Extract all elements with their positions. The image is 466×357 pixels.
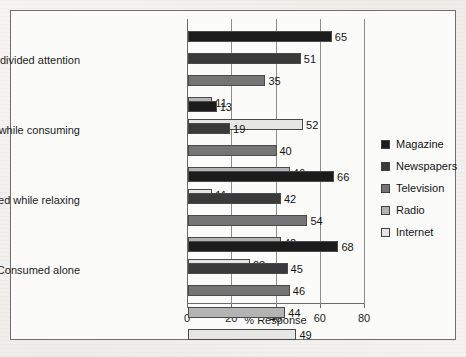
bar[interactable] xyxy=(188,263,288,274)
legend-item-magazine[interactable]: Magazine xyxy=(381,133,457,155)
bar[interactable] xyxy=(188,307,285,318)
bar[interactable] xyxy=(188,171,334,182)
bar-value-label: 13 xyxy=(217,101,232,113)
legend-label: Magazine xyxy=(396,138,444,150)
chart-figure: % Response 020406080Give undivided atten… xyxy=(10,10,456,340)
bar[interactable] xyxy=(188,101,217,112)
bar[interactable] xyxy=(188,145,277,156)
bar-group: Consumed alone6845464449 xyxy=(188,241,364,296)
bar[interactable] xyxy=(188,31,332,42)
bar-group: Do other things while consuming131940461… xyxy=(188,101,364,156)
legend-swatch-icon xyxy=(381,184,390,193)
bar[interactable] xyxy=(188,75,265,86)
bar-value-label: 68 xyxy=(338,241,353,253)
bar-row: 35 xyxy=(188,75,364,86)
legend-swatch-icon xyxy=(381,228,390,237)
bar-group: Give undivided attention6551351152 xyxy=(188,31,364,86)
bar-value-label: 19 xyxy=(230,123,245,135)
bar-value-label: 54 xyxy=(307,215,322,227)
bar-value-label: 49 xyxy=(296,329,311,341)
x-axis-tick xyxy=(364,304,365,308)
bar-row: 66 xyxy=(188,171,364,182)
legend-swatch-icon xyxy=(381,162,390,171)
legend-label: Television xyxy=(396,182,444,194)
bar-row: 42 xyxy=(188,193,364,204)
bar-row: 13 xyxy=(188,101,364,112)
bar-value-label: 66 xyxy=(334,171,349,183)
legend-swatch-icon xyxy=(381,206,390,215)
bar[interactable] xyxy=(188,215,307,226)
legend-item-internet[interactable]: Internet xyxy=(381,221,457,243)
bar-row: 44 xyxy=(188,307,364,318)
bar-group: Consumed while relaxing6642544228 xyxy=(188,171,364,226)
bar[interactable] xyxy=(188,285,290,296)
category-label: Consumed alone xyxy=(0,264,80,276)
bar-row: 65 xyxy=(188,31,364,42)
bar-row: 46 xyxy=(188,285,364,296)
bar-row: 51 xyxy=(188,53,364,64)
bar[interactable] xyxy=(188,193,281,204)
bar-row: 68 xyxy=(188,241,364,252)
gridline xyxy=(364,19,365,304)
category-label: Give undivided attention xyxy=(0,54,80,66)
bar[interactable] xyxy=(188,329,296,340)
legend-item-television[interactable]: Television xyxy=(381,177,457,199)
legend-item-newspapers[interactable]: Newspapers xyxy=(381,155,457,177)
bar-value-label: 44 xyxy=(285,307,300,319)
bar-value-label: 46 xyxy=(290,285,305,297)
chart-legend: MagazineNewspapersTelevisionRadioInterne… xyxy=(381,133,457,243)
bar[interactable] xyxy=(188,241,338,252)
bar-value-label: 42 xyxy=(281,193,296,205)
bar-value-label: 35 xyxy=(265,75,280,87)
bar-value-label: 51 xyxy=(301,53,316,65)
bar-row: 19 xyxy=(188,123,364,134)
legend-swatch-icon xyxy=(381,140,390,149)
legend-item-radio[interactable]: Radio xyxy=(381,199,457,221)
category-label: Consumed while relaxing xyxy=(0,194,80,206)
legend-label: Radio xyxy=(396,204,425,216)
bar-row: 45 xyxy=(188,263,364,274)
legend-label: Newspapers xyxy=(396,160,457,172)
plot-area: 020406080Give undivided attention6551351… xyxy=(187,19,364,304)
bar-row: 40 xyxy=(188,145,364,156)
bar[interactable] xyxy=(188,53,301,64)
bar-value-label: 65 xyxy=(332,31,347,43)
bar-value-label: 40 xyxy=(277,145,292,157)
bar-row: 54 xyxy=(188,215,364,226)
category-label: Do other things while consuming xyxy=(0,124,80,136)
bar-value-label: 45 xyxy=(288,263,303,275)
bar[interactable] xyxy=(188,123,230,134)
legend-label: Internet xyxy=(396,226,433,238)
bar-row: 49 xyxy=(188,329,364,340)
